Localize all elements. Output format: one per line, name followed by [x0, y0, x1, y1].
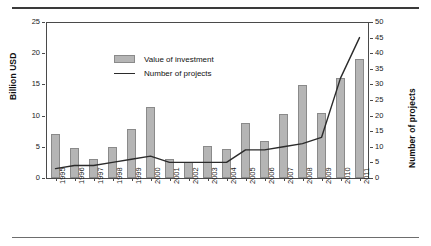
line-series-number-of-projects	[46, 22, 370, 179]
top-divider-rule	[12, 7, 419, 9]
x-axis-tick	[189, 178, 190, 181]
y-axis-left-tick-label: 25	[32, 18, 40, 26]
x-axis-tick	[132, 178, 133, 181]
y-axis-right-tick	[370, 53, 373, 54]
y-axis-right-tick	[370, 22, 373, 23]
x-axis-tick-label: 1998	[116, 167, 124, 184]
y-axis-right-tick-label: 50	[375, 18, 383, 26]
chart-figure: Billion USD Number of projects 051015202…	[0, 0, 431, 246]
y-axis-left-tick	[42, 116, 45, 117]
legend-item-number-of-projects: Number of projects	[114, 66, 214, 80]
y-axis-left-tick-label: 5	[36, 143, 40, 151]
y-axis-left-tick	[42, 84, 45, 85]
y-axis-left-tick	[42, 147, 45, 148]
legend-line-swatch-icon	[114, 73, 135, 74]
y-axis-right-tick	[370, 38, 373, 39]
x-axis-tick-label: 2011	[363, 168, 371, 184]
x-axis-tick-label: 1995	[59, 167, 67, 184]
y-axis-left-tick-label: 0	[36, 174, 40, 182]
legend-item-value-of-investment: Value of investment	[114, 52, 214, 66]
y-axis-right-tick-label: 40	[375, 49, 383, 57]
y-axis-title-right: Number of projects	[407, 88, 417, 168]
x-axis-tick	[284, 178, 285, 181]
x-axis-tick-label: 2003	[211, 167, 219, 184]
x-axis-tick	[151, 178, 152, 181]
y-axis-right-tick	[370, 147, 373, 148]
y-axis-right-tick	[370, 69, 373, 70]
legend-label-number-of-projects: Number of projects	[144, 69, 212, 78]
y-axis-right-tick	[370, 162, 373, 163]
y-axis-left-tick-label: 10	[32, 112, 40, 120]
x-axis-tick	[227, 178, 228, 181]
x-axis-tick	[208, 178, 209, 181]
x-axis-tick-label: 2009	[325, 167, 333, 184]
y-axis-title-left: Billion USD	[8, 53, 18, 100]
y-axis-left-tick	[42, 22, 45, 23]
x-axis-tick	[246, 178, 247, 181]
x-axis-tick-label: 2005	[249, 167, 257, 184]
y-axis-right-tick	[370, 100, 373, 101]
y-axis-right-tick	[370, 84, 373, 85]
x-axis-tick	[94, 178, 95, 181]
y-axis-right-tick-label: 5	[375, 158, 379, 166]
x-axis-tick-label: 1996	[78, 167, 86, 184]
y-axis-right-tick-label: 25	[375, 96, 383, 104]
y-axis-left-tick	[42, 53, 45, 54]
y-axis-right-tick-label: 10	[375, 143, 383, 151]
x-axis-tick	[113, 178, 114, 181]
chart-legend: Value of investment Number of projects	[114, 52, 214, 80]
x-axis-tick	[303, 178, 304, 181]
x-axis-tick-label: 2007	[287, 167, 295, 184]
x-axis-tick-label: 1997	[97, 167, 105, 184]
x-axis-tick	[322, 178, 323, 181]
x-axis-tick-label: 2006	[268, 167, 276, 184]
y-axis-right-tick	[370, 131, 373, 132]
x-axis-tick	[170, 178, 171, 181]
y-axis-right-tick-label: 35	[375, 65, 383, 73]
x-axis-tick	[265, 178, 266, 181]
x-axis-tick-label: 2004	[230, 167, 238, 184]
x-axis-tick	[360, 178, 361, 181]
x-axis-tick-label: 2010	[344, 167, 352, 184]
x-axis-tick	[56, 178, 57, 181]
legend-bar-swatch-icon	[114, 55, 135, 63]
y-axis-left-tick-label: 20	[32, 49, 40, 57]
x-axis-tick	[75, 178, 76, 181]
y-axis-right-tick-label: 15	[375, 127, 383, 135]
x-axis-tick	[341, 178, 342, 181]
y-axis-right-tick-label: 0	[375, 174, 379, 182]
plot-area: 0510152025 05101520253035404550 19951996…	[46, 22, 369, 178]
y-axis-right-tick-label: 20	[375, 112, 383, 120]
x-axis-tick-label: 2008	[306, 167, 314, 184]
x-axis-tick-label: 2001	[173, 167, 181, 184]
y-axis-right-tick-label: 30	[375, 80, 383, 88]
y-axis-left-tick	[42, 178, 45, 179]
x-axis-tick-label: 2000	[154, 167, 162, 184]
y-axis-right-tick	[370, 116, 373, 117]
x-axis-tick-label: 1999	[135, 167, 143, 184]
bottom-divider-rule	[12, 237, 419, 238]
y-axis-left-tick-label: 15	[32, 80, 40, 88]
x-axis-tick-label: 2002	[192, 167, 200, 184]
legend-label-value-of-investment: Value of investment	[144, 55, 214, 64]
y-axis-right-tick-label: 45	[375, 34, 383, 42]
